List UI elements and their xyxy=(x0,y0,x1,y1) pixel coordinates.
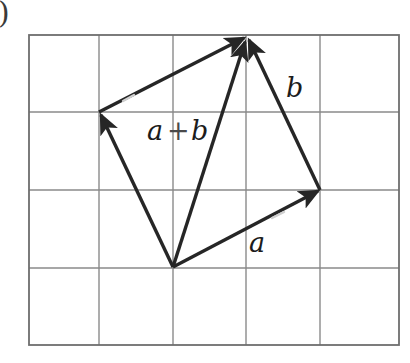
label-sum-plus-sign: + xyxy=(167,115,190,146)
grid-group xyxy=(29,35,399,345)
figure-enumeration-marker: ) xyxy=(0,0,10,30)
label-vector-a: a xyxy=(249,227,265,258)
label-sum-first-term: a xyxy=(147,115,163,146)
vector-a-translated-arrow xyxy=(99,38,244,112)
label-sum-second-term: b xyxy=(191,115,208,146)
vector-figure-container: ) xyxy=(0,0,410,363)
vector-addition-diagram: ) xyxy=(0,0,410,363)
vector-b-arrow xyxy=(249,40,320,190)
label-vector-b: b xyxy=(286,72,303,103)
